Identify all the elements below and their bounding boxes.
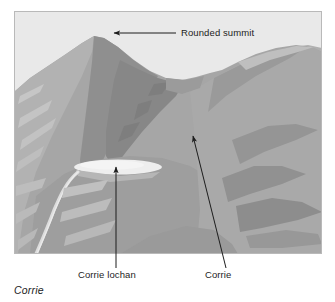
corrie-illustration — [0, 0, 335, 302]
annotation-label-corrie: Corrie — [205, 270, 231, 280]
corrie-lochan-highlight — [80, 161, 144, 170]
scene-content — [14, 11, 322, 254]
corrie-figure: Rounded summit Corrie lochan Corrie Corr… — [0, 0, 335, 302]
figure-caption: Corrie — [14, 284, 44, 296]
annotation-label-corrie-lochan: Corrie lochan — [78, 270, 136, 280]
annotation-label-rounded-summit: Rounded summit — [181, 28, 254, 38]
